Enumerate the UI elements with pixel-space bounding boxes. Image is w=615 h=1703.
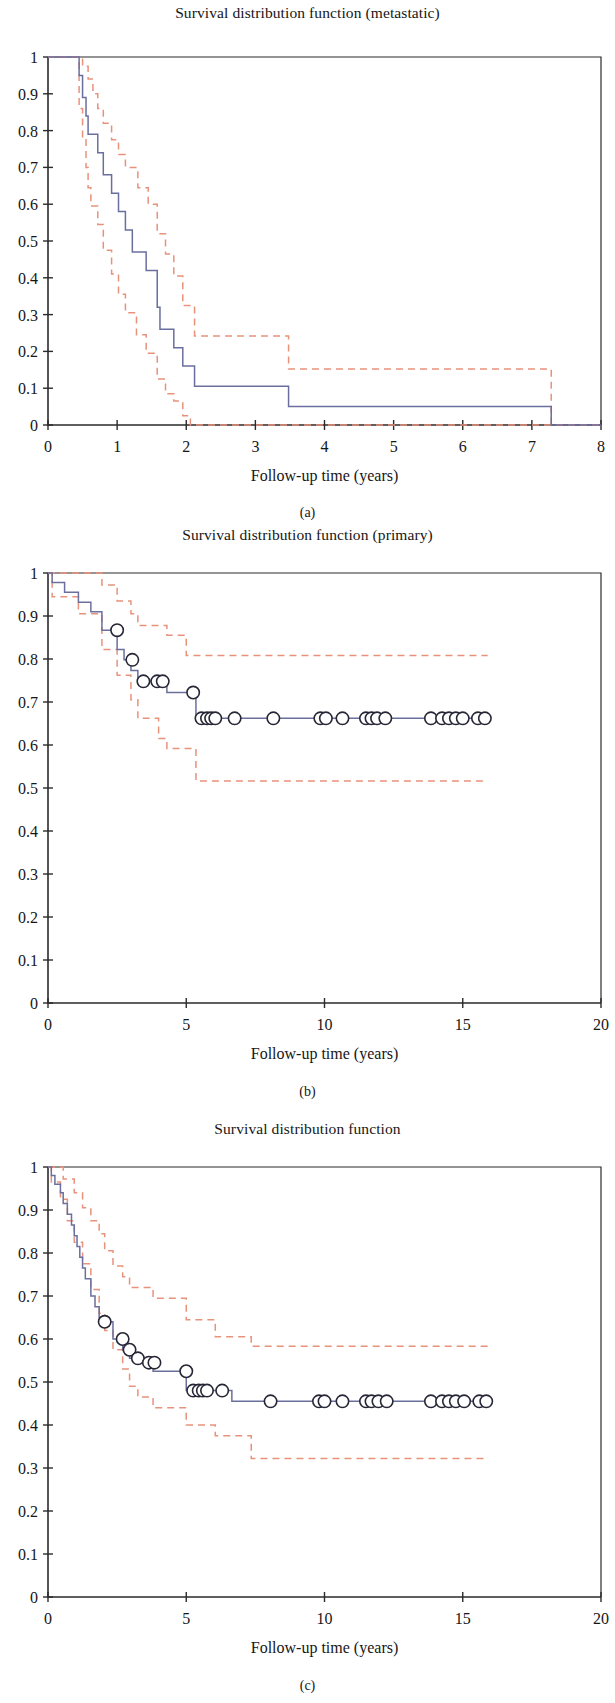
y-tick-label: 0.4: [18, 823, 38, 840]
censor-mark: [137, 675, 149, 687]
y-tick-label: 0.7: [18, 159, 38, 176]
panel-a-plot: 00.10.20.30.40.50.60.70.80.91012345678Fo…: [0, 21, 615, 511]
y-tick-label: 0.8: [18, 123, 38, 140]
x-tick-label: 0: [44, 1610, 52, 1627]
x-axis-title: Follow-up time (years): [251, 467, 399, 485]
censor-mark: [157, 675, 169, 687]
confidence-limit-line: [48, 1167, 488, 1459]
confidence-limit-line: [48, 573, 488, 656]
censor-mark: [180, 1365, 192, 1377]
x-tick-label: 1: [113, 438, 121, 455]
censor-mark: [457, 712, 469, 724]
censor-mark: [111, 624, 123, 636]
censor-mark: [187, 686, 199, 698]
y-tick-label: 0.7: [18, 694, 38, 711]
censor-mark: [98, 1316, 110, 1328]
censor-mark: [209, 712, 221, 724]
x-tick-label: 0: [44, 438, 52, 455]
x-tick-label: 5: [182, 1016, 190, 1033]
censor-mark: [336, 712, 348, 724]
x-tick-label: 20: [593, 1610, 609, 1627]
censor-mark: [126, 654, 138, 666]
panel-c-svg: 00.10.20.30.40.50.60.70.80.9105101520Fol…: [0, 1137, 615, 1682]
x-tick-label: 7: [528, 438, 536, 455]
y-tick-label: 0.5: [18, 780, 38, 797]
censor-mark: [201, 1384, 213, 1396]
y-tick-label: 0.9: [18, 608, 38, 625]
panel-c: Survival distribution function 00.10.20.…: [0, 1112, 615, 1703]
x-axis-title: Follow-up time (years): [251, 1639, 399, 1657]
x-axis-title: Follow-up time (years): [251, 1045, 399, 1063]
censor-mark: [458, 1395, 470, 1407]
axis-frame-top-right: [48, 573, 601, 1003]
y-tick-label: 0.9: [18, 1202, 38, 1219]
y-tick-label: 0: [30, 1589, 38, 1606]
survival-curve-line: [48, 573, 488, 718]
panel-c-plot: 00.10.20.30.40.50.60.70.80.9105101520Fol…: [0, 1137, 615, 1682]
censor-mark: [320, 712, 332, 724]
axis-frame-left-bottom: [48, 1167, 601, 1597]
x-tick-label: 15: [455, 1610, 471, 1627]
x-tick-label: 20: [593, 1016, 609, 1033]
x-tick-label: 15: [455, 1016, 471, 1033]
y-tick-label: 0.1: [18, 1546, 38, 1563]
x-tick-label: 3: [251, 438, 259, 455]
x-tick-label: 5: [182, 1610, 190, 1627]
panel-a-title: Survival distribution function (metastat…: [0, 0, 615, 21]
y-tick-label: 0.2: [18, 909, 38, 926]
censor-mark: [336, 1395, 348, 1407]
y-tick-label: 1: [30, 565, 38, 582]
panel-b: Survival distribution function (primary)…: [0, 520, 615, 1112]
censor-mark: [318, 1395, 330, 1407]
y-tick-label: 0.6: [18, 1331, 38, 1348]
survival-curve-line: [48, 1167, 488, 1401]
y-tick-label: 0.3: [18, 1460, 38, 1477]
panel-c-title: Survival distribution function: [0, 1112, 615, 1137]
confidence-limit-line: [48, 1167, 488, 1346]
y-tick-label: 0.1: [18, 380, 38, 397]
x-tick-label: 0: [44, 1016, 52, 1033]
x-tick-label: 2: [182, 438, 190, 455]
y-tick-label: 0.2: [18, 1503, 38, 1520]
y-tick-label: 0.8: [18, 651, 38, 668]
censor-mark: [267, 712, 279, 724]
y-tick-label: 0.3: [18, 866, 38, 883]
panel-b-plot: 00.10.20.30.40.50.60.70.80.9105101520Fol…: [0, 543, 615, 1088]
confidence-limit-line: [48, 57, 601, 425]
y-tick-label: 0.9: [18, 86, 38, 103]
y-tick-label: 0.5: [18, 233, 38, 250]
axis-frame-top-right: [48, 1167, 601, 1597]
y-tick-label: 0.6: [18, 196, 38, 213]
y-tick-label: 0.3: [18, 307, 38, 324]
y-tick-label: 0.2: [18, 343, 38, 360]
y-tick-label: 0: [30, 995, 38, 1012]
y-tick-label: 1: [30, 49, 38, 66]
panel-a: Survival distribution function (metastat…: [0, 0, 615, 520]
censor-mark: [216, 1384, 228, 1396]
y-tick-label: 0.6: [18, 737, 38, 754]
y-tick-label: 0.7: [18, 1288, 38, 1305]
censor-mark: [148, 1356, 160, 1368]
censor-mark: [479, 712, 491, 724]
censor-mark: [480, 1395, 492, 1407]
y-tick-label: 0.8: [18, 1245, 38, 1262]
censor-mark: [379, 712, 391, 724]
axis-frame-left-bottom: [48, 573, 601, 1003]
panel-a-svg: 00.10.20.30.40.50.60.70.80.91012345678Fo…: [0, 21, 615, 511]
x-tick-label: 8: [597, 438, 605, 455]
y-tick-label: 0.4: [18, 270, 38, 287]
survival-figure: Survival distribution function (metastat…: [0, 0, 615, 1703]
censor-mark: [381, 1395, 393, 1407]
x-tick-label: 10: [317, 1016, 333, 1033]
x-tick-label: 10: [317, 1610, 333, 1627]
y-tick-label: 0: [30, 417, 38, 434]
panel-b-svg: 00.10.20.30.40.50.60.70.80.9105101520Fol…: [0, 543, 615, 1088]
panel-b-title: Survival distribution function (primary): [0, 520, 615, 543]
y-tick-label: 0.1: [18, 952, 38, 969]
confidence-limit-line: [48, 573, 488, 781]
censor-mark: [264, 1395, 276, 1407]
x-tick-label: 5: [390, 438, 398, 455]
censor-mark: [228, 712, 240, 724]
x-tick-label: 6: [459, 438, 467, 455]
y-tick-label: 1: [30, 1159, 38, 1176]
